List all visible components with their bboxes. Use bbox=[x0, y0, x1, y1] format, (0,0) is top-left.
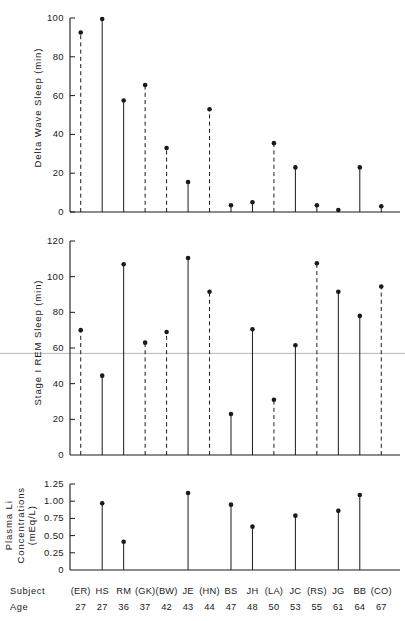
x-axis-subject-code: BS bbox=[225, 586, 238, 596]
data-point bbox=[379, 204, 384, 209]
x-axis-subject-code: (RS) bbox=[307, 586, 327, 596]
data-point bbox=[100, 501, 105, 506]
data-point bbox=[186, 180, 191, 185]
x-axis-subject-age: 36 bbox=[118, 602, 129, 612]
y-axis-tick-label: 60 bbox=[26, 90, 64, 101]
data-point bbox=[78, 30, 83, 35]
x-axis-row-label-subject: Subject bbox=[10, 586, 68, 596]
data-point bbox=[293, 513, 298, 518]
x-axis-subject-code: (LA) bbox=[265, 586, 283, 596]
x-axis-subject-code: RM bbox=[116, 586, 131, 596]
x-axis-subject-age: 61 bbox=[333, 602, 344, 612]
data-point bbox=[229, 502, 234, 507]
data-point bbox=[358, 165, 363, 170]
x-axis-subject-age: 48 bbox=[247, 602, 258, 612]
y-axis-tick-label: 40 bbox=[26, 128, 64, 139]
y-axis-tick-label-zero: 0 bbox=[26, 449, 64, 460]
panel-delta-wave-sleep: Delta Wave Sleep (min) 020406080100 bbox=[0, 0, 405, 225]
data-point bbox=[293, 165, 298, 170]
x-axis-subject-age: 47 bbox=[226, 602, 237, 612]
data-point bbox=[315, 261, 320, 266]
data-point bbox=[186, 256, 191, 261]
y-axis-tick-label: 20 bbox=[26, 413, 64, 424]
x-axis-subject-age: 44 bbox=[204, 602, 215, 612]
x-axis-subject-age: 67 bbox=[376, 602, 387, 612]
data-point bbox=[293, 343, 298, 348]
y-axis-tick-label: 80 bbox=[26, 306, 64, 317]
data-point bbox=[272, 141, 277, 146]
x-axis-subject-code: JC bbox=[290, 586, 302, 596]
x-axis-subject-code: (HN) bbox=[199, 586, 219, 596]
x-axis-subject-table: Subject Age (ER)27HS27RM36(GK)37(BW)42JE… bbox=[0, 578, 405, 620]
x-axis-subject-age: 37 bbox=[140, 602, 151, 612]
y-axis-tick-label-zero: 0 bbox=[26, 564, 64, 575]
x-axis-subject-code: JH bbox=[247, 586, 259, 596]
data-point bbox=[250, 524, 255, 529]
y-axis-tick-label: 1.25 bbox=[26, 478, 64, 489]
data-point bbox=[78, 328, 83, 333]
data-point bbox=[229, 203, 234, 208]
y-axis-tick-label: 40 bbox=[26, 378, 64, 389]
y-axis-tick-label: 80 bbox=[26, 51, 64, 62]
data-point bbox=[250, 200, 255, 205]
x-axis-subject-age: 27 bbox=[75, 602, 86, 612]
data-point bbox=[358, 314, 363, 319]
x-axis-subject-code: HS bbox=[96, 586, 109, 596]
data-point bbox=[207, 290, 212, 295]
x-axis-subject-age: 42 bbox=[161, 602, 172, 612]
panel-plasma-li: Plasma Li Concentrations (mEq/L) 0.250.5… bbox=[0, 470, 405, 580]
x-axis-subject-code: JG bbox=[332, 586, 344, 596]
y-axis-tick-label: 0.25 bbox=[26, 547, 64, 558]
y-axis-tick-label: 1.00 bbox=[26, 495, 64, 506]
x-axis-subject-code: (ER) bbox=[71, 586, 91, 596]
x-axis-subject-code: JE bbox=[182, 586, 193, 596]
data-point bbox=[121, 98, 126, 103]
data-point bbox=[336, 208, 341, 213]
x-axis-row-label-age: Age bbox=[10, 602, 68, 612]
data-point bbox=[250, 327, 255, 332]
data-point bbox=[186, 491, 191, 496]
y-axis-tick-label: 120 bbox=[26, 235, 64, 246]
x-axis-subject-age: 53 bbox=[290, 602, 301, 612]
x-axis-subject-age: 50 bbox=[269, 602, 280, 612]
x-axis-subject-age: 55 bbox=[311, 602, 322, 612]
x-axis-subject-code: (CO) bbox=[371, 586, 392, 596]
data-point bbox=[143, 340, 148, 345]
data-point bbox=[229, 412, 234, 417]
data-point bbox=[336, 509, 341, 514]
data-point bbox=[100, 373, 105, 378]
x-axis-subject-code: (GK) bbox=[135, 586, 155, 596]
y-axis-tick-label: 0.75 bbox=[26, 512, 64, 523]
y-axis-tick-label: 100 bbox=[26, 12, 64, 23]
data-point bbox=[207, 107, 212, 112]
y-axis-tick-label: 60 bbox=[26, 342, 64, 353]
data-point bbox=[121, 262, 126, 267]
x-axis-subject-age: 64 bbox=[354, 602, 365, 612]
x-axis-subject-code: BB bbox=[353, 586, 366, 596]
y-axis-tick-label: 0 bbox=[26, 206, 64, 217]
y-axis-tick-label: 0.50 bbox=[26, 530, 64, 541]
plot-area-delta bbox=[0, 0, 405, 225]
data-point bbox=[358, 493, 363, 498]
data-point bbox=[272, 397, 277, 402]
data-point bbox=[121, 539, 126, 544]
data-point bbox=[164, 146, 169, 151]
panel-stage-i-rem-sleep: Stage I REM Sleep (min) 204060801001200 bbox=[0, 225, 405, 470]
x-axis-subject-age: 43 bbox=[183, 602, 194, 612]
x-axis-subject-age: 27 bbox=[97, 602, 108, 612]
sleep-lithium-figure: Delta Wave Sleep (min) 020406080100 Stag… bbox=[0, 0, 405, 621]
data-point bbox=[336, 290, 341, 295]
data-point bbox=[379, 284, 384, 289]
data-point bbox=[315, 203, 320, 208]
data-point bbox=[100, 17, 105, 22]
x-axis-subject-code: (BW) bbox=[156, 586, 178, 596]
y-axis-tick-label: 20 bbox=[26, 167, 64, 178]
data-point bbox=[143, 83, 148, 88]
data-point bbox=[164, 330, 169, 335]
y-axis-tick-label: 100 bbox=[26, 271, 64, 282]
